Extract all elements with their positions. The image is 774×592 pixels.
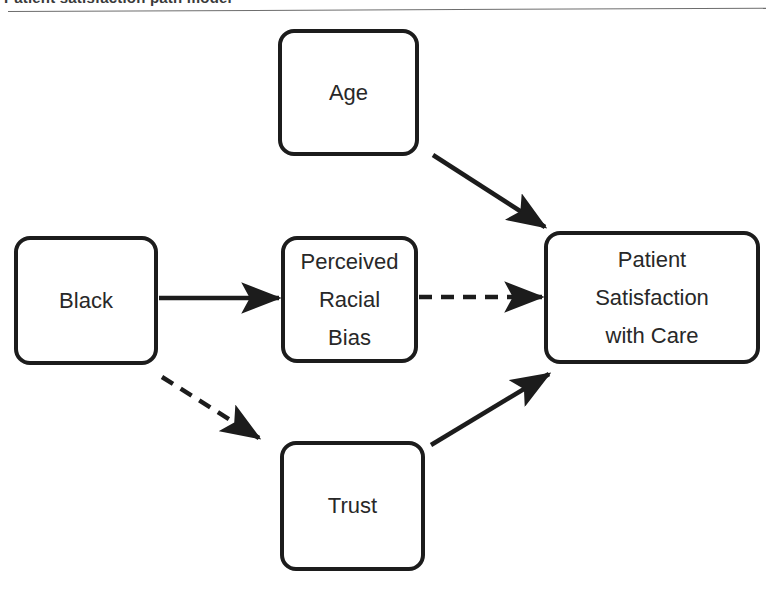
node-patient-satisfaction-with-care-label: Patient Satisfaction with Care (589, 241, 715, 355)
figure-canvas: Patient satisfaction path model Age Blac… (0, 0, 774, 592)
node-black: Black (14, 236, 158, 365)
node-perceived-racial-bias-label: Perceived Racial Bias (295, 243, 405, 357)
edge-trust-to-outcome (431, 374, 549, 445)
node-black-label: Black (53, 282, 119, 320)
node-perceived-racial-bias: Perceived Racial Bias (281, 236, 418, 363)
node-age: Age (278, 29, 419, 156)
node-trust: Trust (280, 441, 425, 571)
edge-black-to-trust (162, 377, 259, 438)
node-age-label: Age (323, 74, 374, 112)
edge-age-to-outcome (433, 155, 545, 227)
node-patient-satisfaction-with-care: Patient Satisfaction with Care (544, 231, 760, 364)
node-trust-label: Trust (322, 487, 383, 525)
